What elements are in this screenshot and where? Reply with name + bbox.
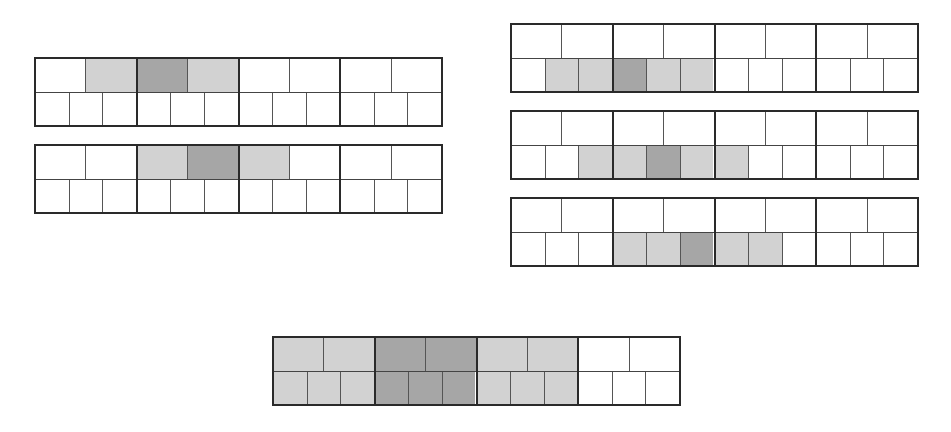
grid-cell-light xyxy=(240,146,289,179)
grid-cell-empty xyxy=(867,199,917,232)
grid-row-top xyxy=(579,338,679,372)
grid-cell-empty xyxy=(612,372,646,405)
grid-block xyxy=(612,25,714,91)
grid-cell-empty xyxy=(579,338,628,371)
grid-row-top xyxy=(614,199,714,233)
grid-top-left-1 xyxy=(34,57,443,127)
grid-cell-empty xyxy=(289,146,339,179)
grid-cell-light xyxy=(323,338,373,371)
grid-row-top xyxy=(716,112,816,146)
grid-cell-light xyxy=(614,233,647,266)
grid-cell-empty xyxy=(170,93,204,126)
grid-row-bottom xyxy=(138,93,238,126)
grid-block xyxy=(512,112,612,178)
grid-cell-light xyxy=(680,146,714,179)
grid-cell-empty xyxy=(663,112,713,145)
grid-cell-light xyxy=(478,338,527,371)
grid-block xyxy=(136,59,238,125)
grid-top-left-2 xyxy=(34,144,443,214)
grid-cell-empty xyxy=(765,112,815,145)
grid-row-bottom xyxy=(478,372,578,405)
grid-cell-empty xyxy=(614,25,663,58)
grid-row-bottom xyxy=(138,180,238,213)
grid-block xyxy=(374,338,476,404)
grid-row-top xyxy=(240,146,340,180)
grid-cell-empty xyxy=(748,146,782,179)
grid-row-bottom xyxy=(614,59,714,92)
grid-row-top xyxy=(138,146,238,180)
grid-cell-empty xyxy=(36,146,85,179)
grid-cell-empty xyxy=(817,112,866,145)
grid-cell-dark xyxy=(408,372,442,405)
grid-row-top xyxy=(341,59,441,93)
grid-row-bottom xyxy=(376,372,476,405)
grid-cell-empty xyxy=(782,59,816,92)
grid-cell-dark xyxy=(614,59,647,92)
grid-cell-empty xyxy=(817,59,850,92)
grid-row-bottom xyxy=(512,146,612,179)
grid-block xyxy=(476,338,578,404)
grid-cell-light xyxy=(545,59,579,92)
grid-cell-empty xyxy=(374,93,408,126)
grid-cell-dark xyxy=(425,338,475,371)
grid-row-bottom xyxy=(716,59,816,92)
grid-cell-empty xyxy=(579,372,612,405)
grid-cell-empty xyxy=(69,180,103,213)
grid-cell-empty xyxy=(614,112,663,145)
grid-cell-empty xyxy=(663,25,713,58)
grid-row-top xyxy=(817,25,917,59)
grid-cell-empty xyxy=(240,180,273,213)
grid-cell-light xyxy=(187,59,237,92)
grid-cell-empty xyxy=(512,112,561,145)
grid-cell-empty xyxy=(716,199,765,232)
grid-cell-empty xyxy=(850,233,884,266)
grid-row-bottom xyxy=(341,93,441,126)
grid-cell-light xyxy=(716,233,749,266)
grid-cell-light xyxy=(748,233,782,266)
grid-cell-empty xyxy=(578,233,612,266)
grid-cell-empty xyxy=(512,199,561,232)
grid-cell-empty xyxy=(85,146,135,179)
grid-row-top xyxy=(478,338,578,372)
grid-cell-empty xyxy=(867,112,917,145)
grid-row-top xyxy=(341,146,441,180)
grid-cell-empty xyxy=(306,93,340,126)
grid-cell-empty xyxy=(817,146,850,179)
grid-row-bottom xyxy=(817,233,917,266)
grid-cell-dark xyxy=(138,59,187,92)
grid-cell-empty xyxy=(512,59,545,92)
grid-cell-empty xyxy=(663,199,713,232)
grid-cell-empty xyxy=(850,146,884,179)
grid-cell-empty xyxy=(341,146,390,179)
grid-cell-empty xyxy=(240,59,289,92)
grid-cell-light xyxy=(578,59,612,92)
grid-row-bottom xyxy=(512,233,612,266)
grid-row-bottom xyxy=(240,93,340,126)
grid-block xyxy=(714,199,816,265)
grid-block xyxy=(815,25,917,91)
grid-cell-empty xyxy=(716,112,765,145)
grid-cell-empty xyxy=(512,233,545,266)
grid-cell-empty xyxy=(782,146,816,179)
grid-cell-empty xyxy=(716,25,765,58)
grid-cell-empty xyxy=(204,180,238,213)
grid-cell-light xyxy=(578,146,612,179)
grid-block xyxy=(815,112,917,178)
grid-row-top xyxy=(614,112,714,146)
grid-cell-empty xyxy=(374,180,408,213)
grid-cell-empty xyxy=(883,233,917,266)
grid-cell-light xyxy=(274,338,323,371)
grid-cell-empty xyxy=(341,93,374,126)
grid-block xyxy=(238,59,340,125)
grid-block xyxy=(36,59,136,125)
grid-cell-empty xyxy=(561,112,611,145)
grid-row-top xyxy=(36,59,136,93)
grid-cell-empty xyxy=(512,146,545,179)
grid-cell-dark xyxy=(646,146,680,179)
grid-cell-empty xyxy=(407,180,441,213)
grid-cell-dark xyxy=(442,372,476,405)
grid-block xyxy=(339,146,441,212)
grid-row-top xyxy=(716,25,816,59)
grid-row-top xyxy=(512,112,612,146)
grid-cell-light xyxy=(274,372,307,405)
